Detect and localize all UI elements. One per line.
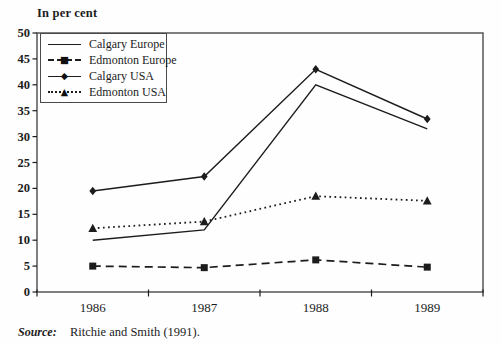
legend-label: Edmonton USA [89, 86, 166, 99]
y-tick-label: 40 [18, 78, 31, 92]
legend-label: Edmonton Europe [89, 54, 177, 67]
y-tick-label: 5 [24, 259, 30, 273]
solid-line-sample [48, 44, 81, 45]
y-tick-label: 10 [18, 233, 31, 247]
square-marker-icon [424, 264, 431, 271]
legend-label: Calgary Europe [89, 38, 165, 51]
y-tick-label: 20 [18, 181, 31, 195]
solid-line-sample: ◆ [48, 76, 81, 77]
series-line-edmonton-usa [93, 196, 428, 228]
y-tick-label: 15 [18, 207, 31, 221]
y-axis: 05101520253035404550 [18, 26, 38, 299]
square-marker-icon [312, 256, 319, 263]
dotted-line-sample: ▲ [48, 91, 81, 93]
triangle-marker-icon [88, 224, 97, 232]
y-tick-label: 0 [24, 285, 30, 299]
x-tick-label: 1988 [303, 300, 329, 315]
square-marker-icon [201, 264, 208, 271]
square-marker-icon [89, 263, 96, 270]
x-axis: 1986198719881989 [37, 290, 483, 316]
legend-item-calgary-usa: ◆ Calgary USA [48, 68, 166, 84]
triangle-marker-icon [423, 196, 432, 204]
x-tick-label: 1986 [80, 300, 107, 315]
legend-label: Calgary USA [89, 70, 154, 83]
diamond-marker-icon [424, 115, 431, 123]
series-calgary-europe [93, 85, 428, 240]
source-label: Source: [18, 325, 57, 340]
triangle-marker-icon: ▲ [61, 87, 68, 97]
y-tick-label: 25 [18, 156, 31, 170]
figure-canvas: In per cent 0510152025303540455019861987… [0, 0, 501, 344]
legend-item-edmonton-usa: ▲ Edmonton USA [48, 84, 166, 100]
series-line-edmonton-europe [93, 260, 428, 268]
source-line: Source: Ritchie and Smith (1991). [0, 325, 501, 343]
diamond-marker-icon [89, 187, 96, 195]
y-tick-label: 45 [18, 52, 31, 66]
x-tick-label: 1987 [191, 300, 218, 315]
source-citation: Ritchie and Smith (1991). [70, 325, 200, 340]
triangle-marker-icon [311, 192, 320, 200]
legend-box: Calgary Europe ■ Edmonton Europe ◆ Calga… [40, 33, 167, 103]
series-edmonton-europe [89, 256, 431, 271]
legend-item-edmonton-europe: ■ Edmonton Europe [48, 52, 166, 68]
y-tick-label: 30 [18, 130, 31, 144]
legend-item-calgary-europe: Calgary Europe [48, 36, 166, 52]
y-tick-label: 50 [18, 26, 31, 40]
series-edmonton-usa [88, 192, 431, 232]
y-tick-label: 35 [18, 104, 31, 118]
dashed-line-sample: ■ [48, 59, 81, 61]
x-tick-label: 1989 [414, 300, 440, 315]
series-line-calgary-europe [93, 85, 428, 240]
square-marker-icon: ■ [60, 55, 69, 65]
diamond-marker-icon: ◆ [61, 71, 68, 81]
